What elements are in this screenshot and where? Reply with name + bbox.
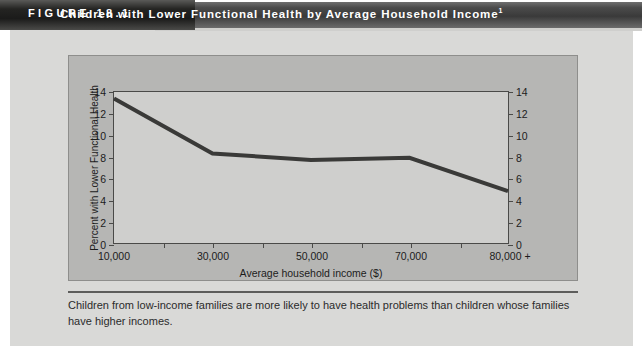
y-axis-tick-label-left: 12 <box>94 109 106 120</box>
caption-divider <box>68 291 578 293</box>
figure-page: FIGURE 18.1 Children with Lower Function… <box>0 0 642 358</box>
y-axis-tick-label-left: 0 <box>100 240 106 251</box>
y-axis-tick-left <box>109 201 114 202</box>
y-axis-tick-label-left: 8 <box>100 153 106 164</box>
x-axis-tick-label: 10,000 <box>98 250 130 262</box>
y-axis-tick-left <box>109 223 114 224</box>
y-axis-tick-right <box>508 136 513 137</box>
y-axis-tick-left <box>109 179 114 180</box>
y-axis-tick-right <box>508 223 513 224</box>
y-axis-tick-right <box>508 158 513 159</box>
y-axis-tick-left <box>109 136 114 137</box>
y-axis-tick-right <box>508 245 513 246</box>
x-axis-minor-tick <box>164 243 165 248</box>
y-axis-tick-left <box>109 158 114 159</box>
y-axis-tick-label-left: 10 <box>94 131 106 142</box>
y-axis-tick-label-left: 6 <box>100 174 106 185</box>
x-axis-tick-label: 30,000 <box>197 250 229 262</box>
y-axis-tick-label-right: 4 <box>516 196 522 207</box>
plot-area: 024681012140246810121410,00030,00050,000… <box>113 91 509 244</box>
x-axis-title: Average household income ($) <box>113 267 509 279</box>
y-axis-tick-label-left: 4 <box>100 196 106 207</box>
x-axis-tick-label: 50,000 <box>296 250 328 262</box>
y-axis-tick-right <box>508 114 513 115</box>
y-axis-tick-label-right: 14 <box>516 87 528 98</box>
y-axis-tick-right <box>508 92 513 93</box>
figure-header-banner: FIGURE 18.1 Children with Lower Function… <box>0 0 642 30</box>
series-polyline <box>114 98 508 191</box>
figure-title: Children with Lower Functional Health by… <box>60 7 502 20</box>
x-axis-tick <box>213 243 214 248</box>
y-axis-tick-right <box>508 201 513 202</box>
y-axis-tick-label-left: 14 <box>94 87 106 98</box>
x-axis-tick-label: 70,000 <box>395 250 427 262</box>
x-axis-minor-tick <box>263 243 264 248</box>
y-axis-tick-left <box>109 114 114 115</box>
y-axis-tick-left <box>109 245 114 246</box>
y-axis-tick-label-right: 2 <box>516 218 522 229</box>
y-axis-tick-label-left: 2 <box>100 218 106 229</box>
y-axis-tick-label-right: 6 <box>516 174 522 185</box>
y-axis-tick-label-right: 8 <box>516 153 522 164</box>
y-axis-tick-label-right: 0 <box>516 240 522 251</box>
x-axis-tick <box>411 243 412 248</box>
x-axis-tick-label: 80,000 + <box>489 250 530 262</box>
figure-caption: Children from low-income families are mo… <box>68 297 573 329</box>
header-underline-rule <box>155 28 642 31</box>
y-axis-tick-right <box>508 179 513 180</box>
y-axis-tick-label-right: 10 <box>516 131 528 142</box>
x-axis-minor-tick <box>461 243 462 248</box>
chart-panel: Percent with Lower Functional Health 024… <box>68 55 578 281</box>
x-axis-tick <box>312 243 313 248</box>
figure-title-text: Children with Lower Functional Health by… <box>60 8 498 20</box>
figure-title-footnote-marker: 1 <box>498 7 502 14</box>
chart-line-series <box>114 92 508 243</box>
y-axis-tick-label-right: 12 <box>516 109 528 120</box>
y-axis-tick-left <box>109 92 114 93</box>
x-axis-minor-tick <box>362 243 363 248</box>
